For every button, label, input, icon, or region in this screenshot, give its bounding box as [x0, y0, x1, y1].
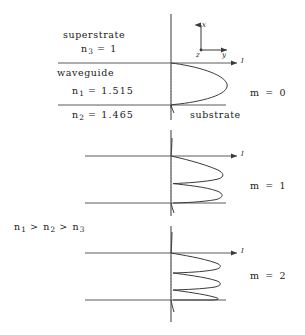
mode-label-1: m = 1: [250, 181, 287, 191]
intensity-axis-label-panel-2: I: [241, 248, 244, 255]
x-axis-label: x: [202, 22, 206, 29]
waveguide-index-label: n1 = 1.515: [72, 86, 134, 97]
mode-label-0: m = 0: [250, 88, 287, 98]
y-axis-label: y: [222, 52, 226, 59]
figure-vector-graphics: [0, 0, 305, 335]
superstrate-index-label: n3 = 1: [81, 44, 117, 55]
substrate-index-label: n2 = 1.465: [72, 110, 134, 121]
inequality-n2-subscript: 2: [50, 225, 55, 234]
panel-mode-2: [85, 226, 237, 322]
inequality-operator-1: >: [30, 221, 39, 232]
waveguide-mode-figure: superstrate n3 = 1 waveguide n1 = 1.515 …: [0, 0, 305, 335]
inequality-n1-subscript: 1: [21, 225, 26, 234]
waveguide-index-value: = 1.515: [88, 85, 134, 96]
panel-mode-1: [85, 130, 237, 216]
substrate-index-subscript: 2: [79, 113, 84, 122]
intensity-axis-label-panel-0: I: [241, 58, 244, 65]
mode-1-intensity-curve: [171, 156, 223, 203]
inequality-operator-2: >: [59, 221, 68, 232]
intensity-axis-label-panel-1: I: [241, 151, 244, 158]
substrate-index-value: = 1.465: [88, 109, 134, 120]
mode-label-2: m = 2: [250, 271, 287, 281]
superstrate-index-subscript: 3: [88, 47, 93, 56]
waveguide-label: waveguide: [57, 68, 114, 78]
substrate-label: substrate: [190, 110, 241, 120]
mode-0-intensity-curve: [171, 63, 227, 108]
superstrate-label: superstrate: [63, 30, 125, 40]
refractive-index-inequality: n1 > n2 > n3: [14, 222, 84, 233]
z-axis-label: z: [196, 52, 200, 59]
inequality-n3-base: n: [73, 221, 80, 232]
inequality-n3-subscript: 3: [80, 225, 85, 234]
z-axis-origin-dot: [200, 49, 203, 52]
mode-2-intensity-curve: [171, 253, 220, 300]
waveguide-index-subscript: 1: [79, 89, 84, 98]
superstrate-index-value: = 1: [97, 43, 117, 54]
